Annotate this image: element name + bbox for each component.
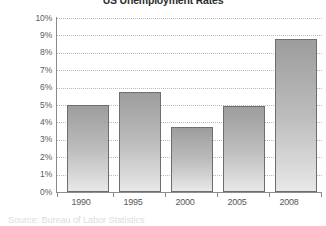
y-tick-label: 3% — [6, 135, 52, 144]
plot-area — [57, 18, 322, 192]
source-note: Source: Bureau of Labor Statistics — [8, 215, 145, 226]
y-tick-label: 4% — [6, 118, 52, 127]
bar-2000 — [171, 127, 213, 192]
y-tick-label: 10% — [6, 14, 52, 23]
gridline-0-baseline — [57, 192, 322, 193]
y-tick-label: 6% — [6, 83, 52, 92]
x-tick-label-2000: 2000 — [162, 197, 208, 208]
y-tick-label: 7% — [6, 66, 52, 75]
y-tick-label: 5% — [6, 101, 52, 110]
bar-2008 — [275, 39, 317, 192]
x-tick-label-1990: 1990 — [58, 197, 104, 208]
y-tick-label: 2% — [6, 153, 52, 162]
gridline-10 — [57, 18, 322, 19]
chart-figure: US Unemployment Rates 10% 9% 8% 7% 6% 5%… — [0, 0, 326, 226]
y-axis-tick-labels: 10% 9% 8% 7% 6% 5% 4% 3% 2% 1% 0% — [0, 0, 52, 226]
x-tick-label-2005: 2005 — [214, 197, 260, 208]
x-tick — [321, 192, 322, 197]
y-tick-label: 8% — [6, 48, 52, 57]
y-tick-label: 1% — [6, 170, 52, 179]
x-tick-label-2008: 2008 — [266, 197, 312, 208]
y-tick-label: 9% — [6, 31, 52, 40]
bar-1990 — [67, 105, 109, 192]
y-tick-label: 0% — [6, 188, 52, 197]
bar-2005 — [223, 106, 265, 192]
gridline-9 — [57, 35, 322, 36]
x-tick-label-1995: 1995 — [110, 197, 156, 208]
bar-1995 — [119, 92, 161, 192]
